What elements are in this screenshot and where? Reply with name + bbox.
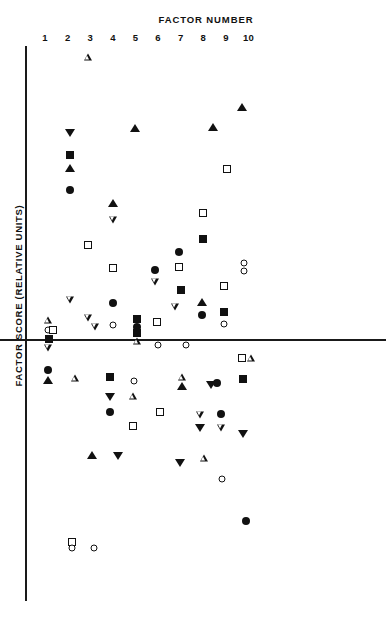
data-point-open-circle-f7	[155, 342, 162, 349]
data-point-open-square-f7	[153, 318, 161, 326]
data-point-filled-triangle-f4	[108, 199, 118, 207]
data-point-open-square-f7	[175, 263, 183, 271]
data-point-open-triangle-f3	[84, 54, 92, 61]
x-tick-label-10: 10	[243, 32, 254, 43]
data-point-open-circle-f10	[241, 260, 248, 267]
data-point-filled-dtriangle-f3	[105, 393, 115, 401]
data-point-open-triangle-f2	[71, 375, 79, 382]
data-point-filled-circle-f6	[151, 266, 159, 274]
data-point-open-dtriangle-f3	[84, 315, 92, 322]
x-tick-label-9: 9	[223, 32, 228, 43]
data-point-filled-circle-f10	[242, 517, 250, 525]
data-point-open-circle-f5	[131, 378, 138, 385]
x-tick-label-3: 3	[88, 32, 93, 43]
data-point-open-dtriangle-f6	[151, 279, 159, 286]
data-point-filled-triangle-f3	[87, 451, 97, 459]
data-point-open-dtriangle-f4	[91, 324, 99, 331]
data-point-open-square-f3	[84, 241, 92, 249]
data-point-open-dtriangle-f7	[171, 304, 179, 311]
data-point-filled-square-f6	[133, 315, 141, 323]
data-point-filled-dtriangle-f8	[195, 424, 205, 432]
data-point-open-triangle-f6	[133, 338, 141, 345]
data-point-filled-dtriangle-f10	[238, 430, 248, 438]
data-point-filled-dtriangle-f7	[175, 459, 185, 467]
data-point-open-circle-f10	[241, 268, 248, 275]
y-axis-label: FACTOR SCORE (RELATIVE UNITS)	[13, 191, 24, 401]
data-point-open-triangle-f4	[129, 393, 137, 400]
data-point-open-square-f9	[220, 282, 228, 290]
data-point-filled-circle-f9	[213, 379, 221, 387]
x-tick-label-4: 4	[110, 32, 115, 43]
data-point-filled-dtriangle-f2	[65, 129, 75, 137]
data-point-filled-circle-f5	[109, 299, 117, 307]
data-point-open-square-f10	[238, 354, 246, 362]
data-point-filled-triangle-f1	[43, 376, 53, 384]
data-point-open-dtriangle-f4	[109, 217, 117, 224]
data-point-filled-dtriangle-f4	[113, 452, 123, 460]
data-point-filled-triangle-f7	[177, 382, 187, 390]
data-point-open-circle-f2	[69, 545, 76, 552]
data-point-filled-square-f9	[220, 308, 228, 316]
x-tick-label-5: 5	[133, 32, 138, 43]
x-tick-label-7: 7	[178, 32, 183, 43]
y-axis-line	[25, 46, 27, 601]
x-axis-zero-line	[0, 339, 386, 341]
data-point-filled-circle-f2	[66, 186, 74, 194]
data-point-filled-square-f1	[45, 335, 53, 343]
data-point-filled-triangle-f8	[208, 123, 218, 131]
data-point-filled-square-f2	[66, 151, 74, 159]
x-tick-label-1: 1	[42, 32, 47, 43]
data-point-filled-triangle-f4	[130, 124, 140, 132]
x-tick-label-2: 2	[65, 32, 70, 43]
data-point-open-circle-f9	[221, 321, 228, 328]
data-point-open-triangle-f1	[44, 317, 52, 324]
data-point-open-square-f1	[49, 326, 57, 334]
data-point-filled-square-f6	[133, 329, 141, 337]
data-point-open-triangle-f8	[200, 455, 208, 462]
data-point-open-square-f8	[223, 165, 231, 173]
data-point-open-triangle-f7	[178, 374, 186, 381]
data-point-filled-square-f7	[177, 286, 185, 294]
data-point-open-square-f5	[109, 264, 117, 272]
data-point-open-square-f4	[129, 422, 137, 430]
data-point-filled-square-f8	[199, 235, 207, 243]
data-point-filled-circle-f7	[175, 248, 183, 256]
data-point-open-dtriangle-f1	[44, 345, 52, 352]
data-point-filled-circle-f9	[217, 410, 225, 418]
data-point-open-triangle-f10	[247, 355, 255, 362]
data-point-open-dtriangle-f8	[196, 412, 204, 419]
data-point-filled-triangle-f8	[197, 298, 207, 306]
data-point-filled-triangle-f2	[65, 164, 75, 172]
chart-title: FACTOR NUMBER	[0, 14, 386, 25]
scatter-plot-figure: FACTOR NUMBER 12345678910 FACTOR SCORE (…	[0, 0, 386, 619]
data-point-open-square-f6	[156, 408, 164, 416]
data-point-filled-circle-f8	[198, 311, 206, 319]
data-point-filled-triangle-f10	[237, 103, 247, 111]
data-point-filled-square-f10	[239, 375, 247, 383]
data-point-open-dtriangle-f9	[217, 425, 225, 432]
data-point-open-circle-f9	[219, 476, 226, 483]
data-point-filled-circle-f1	[44, 366, 52, 374]
data-point-open-circle-f3	[91, 545, 98, 552]
data-point-filled-square-f3	[106, 373, 114, 381]
data-point-open-circle-f8	[183, 342, 190, 349]
x-tick-label-8: 8	[201, 32, 206, 43]
data-point-open-circle-f5	[110, 322, 117, 329]
data-point-filled-circle-f3	[106, 408, 114, 416]
data-point-open-dtriangle-f2	[66, 297, 74, 304]
x-tick-label-6: 6	[155, 32, 160, 43]
data-point-open-square-f8	[199, 209, 207, 217]
